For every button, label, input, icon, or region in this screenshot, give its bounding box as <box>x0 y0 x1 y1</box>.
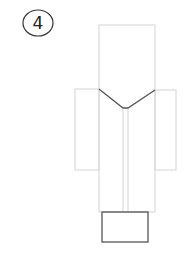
step-marker: 4 <box>23 10 53 36</box>
step-number: 4 <box>33 13 44 33</box>
left-sleeve <box>75 89 99 170</box>
base-box <box>102 212 148 242</box>
right-sleeve <box>155 90 176 170</box>
folding-diagram: 4 <box>0 0 188 262</box>
body-panel <box>99 25 155 212</box>
collar-v-fold <box>99 89 155 108</box>
